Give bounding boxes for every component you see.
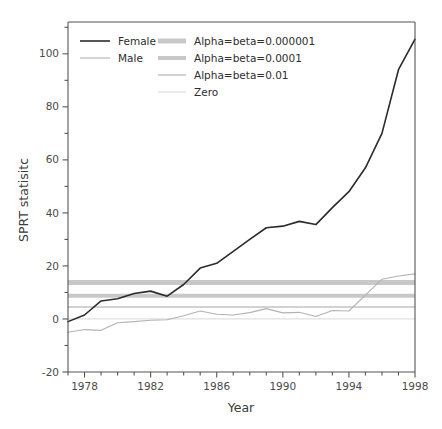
y-tick-label--20: -20 xyxy=(42,366,59,378)
x-axis-title: Year xyxy=(227,400,255,415)
x-tick-label-1986: 1986 xyxy=(203,380,230,392)
y-tick-label-100: 100 xyxy=(39,47,59,59)
y-tick-label-40: 40 xyxy=(46,207,59,219)
y-tick-label-60: 60 xyxy=(46,153,59,165)
legend-label-1: Male xyxy=(118,52,143,64)
x-tick-label-1994: 1994 xyxy=(336,380,363,392)
legend-label-4: Alpha=beta=0.01 xyxy=(194,69,289,81)
legend-label-5: Zero xyxy=(194,86,218,98)
y-tick-label-0: 0 xyxy=(52,313,59,325)
x-tick-label-1990: 1990 xyxy=(269,380,296,392)
legend-label-3: Alpha=beta=0.0001 xyxy=(194,52,302,64)
x-tick-label-1998: 1998 xyxy=(402,380,429,392)
x-tick-label-1978: 1978 xyxy=(71,380,98,392)
legend-label-0: Female xyxy=(118,35,156,47)
chart-figure: -20020406080100197819821986199019941998 … xyxy=(0,0,442,429)
y-tick-label-20: 20 xyxy=(46,260,59,272)
x-tick-label-1982: 1982 xyxy=(137,380,164,392)
chart-background xyxy=(0,0,442,429)
legend-label-2: Alpha=beta=0.000001 xyxy=(194,35,315,47)
y-tick-label-80: 80 xyxy=(46,100,59,112)
y-axis-title: SPRT statisitc xyxy=(16,158,31,242)
sprt-line-chart: -20020406080100197819821986199019941998 … xyxy=(0,0,442,429)
